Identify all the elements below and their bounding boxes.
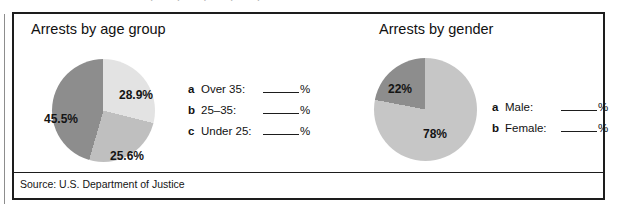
legend-key-b: b <box>188 104 201 116</box>
legend-item-under-25: c Under 25: % <box>188 124 310 145</box>
legend-key-a: a <box>188 83 201 95</box>
answer-blank-over-35[interactable] <box>263 82 299 93</box>
legend-label-female: Female: <box>505 122 561 134</box>
panel-arrests-by-gender: Arrests by gender 22% 78% a Male: % b Fe… <box>324 14 603 172</box>
legend-item-25-35: b 25–35: % <box>188 103 310 124</box>
panel-arrests-by-age-group: Arrests by age group 28.9% 25.6% 45.5% a… <box>14 14 324 172</box>
legend-percent-sign-over-35: % <box>300 83 310 95</box>
legend-percent-sign-under-25: % <box>300 125 310 137</box>
legend-label-male: Male: <box>505 101 561 113</box>
figure-frame: Arrests by age group 28.9% 25.6% 45.5% a… <box>12 12 605 200</box>
answer-blank-female[interactable] <box>561 121 597 132</box>
legend-percent-sign-25-35: % <box>300 104 310 116</box>
page-margin-rule <box>4 14 5 204</box>
legend-percent-sign-female: % <box>598 122 608 134</box>
pie-slice-label-over-35: 28.9% <box>119 88 153 102</box>
pie-slice-label-female: 78% <box>423 127 447 141</box>
page-top-cutoff-artifact: . . . . . <box>0 0 619 6</box>
legend-age-group: a Over 35: % b 25–35: % c Under 25: % <box>188 82 310 145</box>
source-divider <box>14 172 603 173</box>
pie-chart-age-group <box>52 59 155 162</box>
answer-blank-male[interactable] <box>561 100 597 111</box>
legend-item-male: a Male: % <box>492 100 608 121</box>
legend-gender: a Male: % b Female: % <box>492 100 608 142</box>
legend-item-over-35: a Over 35: % <box>188 82 310 103</box>
legend-label-over-35: Over 35: <box>201 83 263 95</box>
pie-slice-label-male: 22% <box>388 82 412 96</box>
pie-chart-gender <box>374 58 477 161</box>
source-note: Source: U.S. Department of Justice <box>20 178 185 190</box>
legend-key-a: a <box>492 101 505 113</box>
panel-title-gender: Arrests by gender <box>379 21 493 37</box>
pie-slice-label-25-35: 25.6% <box>110 149 144 163</box>
panel-title-age: Arrests by age group <box>31 21 166 37</box>
legend-key-b: b <box>492 122 505 134</box>
legend-key-c: c <box>188 125 201 137</box>
chart-panels: Arrests by age group 28.9% 25.6% 45.5% a… <box>14 14 603 172</box>
cutoff-text-ghost: . . . . . <box>150 0 270 4</box>
legend-label-under-25: Under 25: <box>201 125 263 137</box>
legend-item-female: b Female: % <box>492 121 608 142</box>
pie-slice-label-under-25: 45.5% <box>44 112 78 126</box>
answer-blank-under-25[interactable] <box>263 124 299 135</box>
legend-percent-sign-male: % <box>598 101 608 113</box>
legend-label-25-35: 25–35: <box>201 104 263 116</box>
answer-blank-25-35[interactable] <box>263 103 299 114</box>
